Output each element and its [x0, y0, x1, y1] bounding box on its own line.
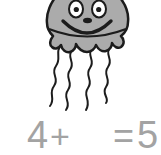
- equation: 4 + = 5: [0, 0, 161, 155]
- equals-sign: =: [113, 118, 134, 154]
- equation-result: 5: [137, 116, 158, 154]
- worksheet-cell: 4 + = 5: [0, 0, 161, 155]
- plus-operator: +: [50, 119, 70, 153]
- equation-addend: 4: [27, 116, 48, 154]
